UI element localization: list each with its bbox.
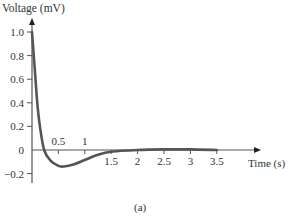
y-axis-arrow-icon	[29, 18, 35, 25]
y-tick-label: −0.2	[4, 168, 24, 180]
x-axis-arrow-icon	[254, 147, 261, 153]
y-tick-label: 0.8	[10, 50, 24, 62]
y-tick-label: 0.6	[10, 73, 24, 85]
x-tick-label: 3.5	[210, 155, 224, 167]
x-tick-label: 0.5	[52, 135, 66, 147]
figure-caption: (a)	[134, 201, 147, 214]
y-tick-label: 0.2	[10, 120, 24, 132]
voltage-time-chart: 1.00.80.60.40.20−0.20.511.522.533.5 Volt…	[0, 0, 289, 222]
y-tick-label: 0	[19, 144, 25, 156]
y-tick-label: 1.0	[10, 26, 24, 38]
y-tick-label: 0.4	[10, 97, 24, 109]
x-tick-label: 3	[188, 155, 194, 167]
x-tick-label: 2.5	[157, 155, 171, 167]
x-axis-label: Time (s)	[248, 157, 286, 170]
y-axis-label: Voltage (mV)	[2, 2, 65, 15]
x-tick-label: 1	[82, 135, 88, 147]
axes: 1.00.80.60.40.20−0.20.511.522.533.5	[4, 18, 261, 183]
x-tick-label: 2	[135, 155, 141, 167]
x-tick-label: 1.5	[104, 155, 118, 167]
